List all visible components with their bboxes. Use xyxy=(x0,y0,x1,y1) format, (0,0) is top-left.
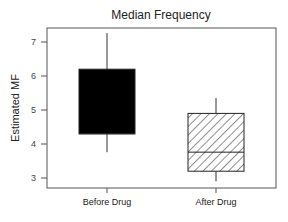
y-tick-label: 4 xyxy=(31,139,36,149)
y-axis-label: Estimated MF xyxy=(9,74,21,142)
box-after-drug xyxy=(188,98,244,181)
y-tick-label: 6 xyxy=(31,71,36,81)
x-tick-label: After Drug xyxy=(195,197,236,207)
x-axis: Before DrugAfter Drug xyxy=(83,188,237,207)
box-plot-chart: Median Frequency 34567 Before DrugAfter … xyxy=(0,0,288,222)
iqr-box xyxy=(79,69,135,134)
y-axis: 34567 xyxy=(31,37,47,183)
y-tick-label: 3 xyxy=(31,173,36,183)
box-before-drug xyxy=(79,33,135,152)
iqr-box xyxy=(188,113,244,171)
y-tick-label: 7 xyxy=(31,37,36,47)
chart-title: Median Frequency xyxy=(111,8,210,22)
x-tick-label: Before Drug xyxy=(83,197,132,207)
y-tick-label: 5 xyxy=(31,105,36,115)
boxes xyxy=(79,33,244,181)
